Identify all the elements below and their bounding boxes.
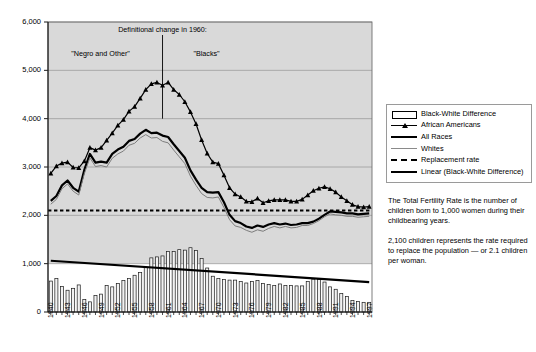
x-tick-label: 1994 [349, 302, 356, 318]
y-tick-label: 1,000 [22, 259, 41, 268]
legend-item: All Races [391, 131, 528, 143]
bar-black-white-difference [245, 283, 248, 312]
legend-label: Whites [421, 144, 444, 154]
bar-black-white-difference [105, 285, 108, 312]
bar-black-white-difference [289, 285, 292, 312]
legend-key-dash-icon [391, 155, 417, 165]
legend-swatch [391, 136, 417, 138]
bar-black-white-difference [178, 250, 181, 312]
bar-black-white-difference [127, 279, 130, 312]
x-tick-label: 1958 [148, 302, 155, 318]
bar-black-white-difference [88, 302, 91, 312]
x-tick-label: 1982 [282, 302, 289, 318]
bar-black-white-difference [256, 281, 259, 312]
bar-black-white-difference [77, 285, 80, 312]
x-tick-label: 1946 [81, 302, 88, 318]
chart-legend: Black-White DifferenceAfrican AmericansA… [386, 104, 532, 183]
plot-background-upper [48, 22, 372, 264]
x-tick-label: 1955 [131, 302, 138, 318]
y-tick-label: 3,000 [22, 162, 41, 171]
annotation-right-label: "Blacks" [193, 49, 220, 58]
bar-black-white-difference [362, 302, 365, 312]
x-tick-label: 1988 [316, 302, 323, 318]
x-tick-label: 1985 [299, 302, 306, 318]
bar-black-white-difference [278, 284, 281, 312]
legend-swatch [391, 148, 417, 149]
bar-black-white-difference [206, 268, 209, 312]
legend-key-bar-icon [391, 109, 417, 119]
legend-label: All Races [421, 132, 452, 142]
legend-key-thick-icon [391, 132, 417, 142]
y-tick-label: 2,000 [22, 210, 41, 219]
annotation-headline: Definitional change in 1960: [118, 25, 207, 34]
bar-black-white-difference [211, 276, 214, 312]
legend-key-triangle-icon [391, 120, 417, 130]
x-tick-label: 1943 [64, 302, 71, 318]
legend-label: African Americans [421, 120, 481, 130]
bar-black-white-difference [55, 279, 58, 312]
legend-key-thin-icon [391, 144, 417, 154]
legend-swatch [391, 171, 417, 173]
legend-swatch [392, 111, 417, 119]
bar-black-white-difference [144, 267, 147, 312]
bar-black-white-difference [239, 282, 242, 312]
x-tick-label: 1949 [98, 302, 105, 318]
legend-triangle-marker-icon [402, 123, 408, 128]
bar-black-white-difference [273, 285, 276, 312]
bar-black-white-difference [323, 282, 326, 312]
bar-black-white-difference [356, 301, 359, 312]
bar-black-white-difference [111, 287, 114, 312]
legend-label: Linear (Black-White Difference) [421, 167, 524, 177]
bar-black-white-difference [228, 280, 231, 312]
note-paragraph-2: 2,100 children represents the rate requi… [388, 236, 532, 267]
x-tick-label: 1973 [232, 302, 239, 318]
bar-black-white-difference [329, 287, 332, 312]
x-tick-label: 1970 [215, 302, 222, 318]
annotation-left-label: "Negro and Other" [71, 49, 130, 58]
y-tick-label: 5,000 [22, 65, 41, 74]
bar-black-white-difference [222, 280, 225, 312]
legend-key-thick-icon [391, 167, 417, 177]
bar-black-white-difference [194, 251, 197, 312]
bar-black-white-difference [161, 256, 164, 312]
legend-item: Linear (Black-White Difference) [391, 166, 528, 178]
x-tick-label: 1991 [332, 302, 339, 318]
chart-container: 01,0002,0003,0004,0005,0006,000194019431… [0, 0, 536, 352]
x-tick-label: 1967 [198, 302, 205, 318]
x-tick-label: 1979 [265, 302, 272, 318]
bar-black-white-difference [295, 286, 298, 312]
bar-black-white-difference [172, 252, 175, 312]
y-tick-label: 6,000 [22, 17, 41, 26]
y-tick-label: 4,000 [22, 114, 41, 123]
bar-black-white-difference [139, 272, 142, 312]
x-tick-label: 1952 [114, 302, 121, 318]
legend-item: Whites [391, 143, 528, 155]
x-tick-label: 1961 [165, 302, 172, 318]
bar-black-white-difference [189, 248, 192, 312]
explanatory-note: The Total Fertility Rate is the number o… [388, 196, 532, 275]
legend-item: Replacement rate [391, 154, 528, 166]
legend-label: Black-White Difference [421, 109, 496, 119]
bar-black-white-difference [340, 294, 343, 312]
bar-black-white-difference [262, 283, 265, 312]
x-tick-label: 1964 [181, 302, 188, 318]
legend-item: African Americans [391, 120, 528, 132]
legend-label: Replacement rate [421, 155, 479, 165]
bar-black-white-difference [60, 286, 63, 312]
bar-black-white-difference [94, 296, 97, 312]
bar-black-white-difference [312, 279, 315, 312]
bar-black-white-difference [122, 281, 125, 312]
bar-black-white-difference [155, 257, 158, 312]
x-tick-label: 1976 [248, 302, 255, 318]
note-paragraph-1: The Total Fertility Rate is the number o… [388, 196, 532, 227]
legend-swatch [391, 159, 417, 161]
bar-black-white-difference [345, 297, 348, 312]
legend-item: Black-White Difference [391, 108, 528, 120]
y-tick-label: 0 [37, 307, 41, 316]
bar-black-white-difference [306, 282, 309, 312]
bar-black-white-difference [72, 288, 75, 312]
